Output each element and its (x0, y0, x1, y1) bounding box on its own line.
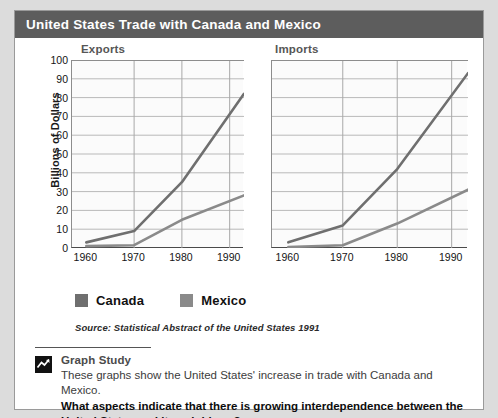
legend-swatch-mexico (180, 294, 193, 307)
x-tick-1990: 1990 (217, 251, 240, 263)
y-tick-60: 60 (56, 130, 68, 140)
y-tick-30: 30 (56, 187, 68, 197)
y-tick-0: 0 (62, 243, 68, 253)
x-tick-1970: 1970 (121, 251, 144, 263)
y-tick-20: 20 (56, 205, 68, 215)
series-line-canada (288, 73, 468, 242)
y-tick-10: 10 (56, 224, 68, 234)
legend-swatch-canada (75, 294, 88, 307)
y-tick-90: 90 (56, 74, 68, 84)
series-line-mexico (288, 190, 468, 247)
trade-graph-card: United States Trade with Canada and Mexi… (14, 10, 484, 410)
source-note: Source: Statistical Abstract of the Unit… (75, 322, 320, 333)
chart-imports-plot-area (271, 60, 467, 248)
line-chart-icon (35, 356, 52, 373)
caption-heading: Graph Study (61, 353, 469, 367)
caption-body: Graph Study These graphs show the United… (61, 353, 469, 418)
y-tick-80: 80 (56, 93, 68, 103)
y-tick-100: 100 (50, 55, 68, 65)
chart-exports: Exports Billions of Dollars 010203040506… (33, 38, 255, 288)
x-tick-1960: 1960 (276, 251, 299, 263)
chart-legend: Canada Mexico (75, 293, 246, 308)
chart-exports-plot-area (71, 60, 243, 248)
series-line-mexico (86, 195, 244, 246)
chart-exports-y-tick-labels: 0102030405060708090100 (44, 60, 68, 248)
x-tick-1960: 1960 (74, 251, 97, 263)
x-tick-1980: 1980 (385, 251, 408, 263)
charts-container: Exports Billions of Dollars 010203040506… (15, 38, 483, 288)
caption-description: These graphs show the United States' inc… (61, 368, 469, 398)
y-tick-50: 50 (56, 149, 68, 159)
x-tick-1970: 1970 (330, 251, 353, 263)
chart-imports-title: Imports (275, 43, 319, 55)
chart-imports-svg (272, 60, 468, 248)
legend-item-canada: Canada (75, 293, 144, 308)
legend-label-mexico: Mexico (201, 293, 246, 308)
caption-divider (35, 347, 151, 348)
card-title-bar: United States Trade with Canada and Mexi… (15, 11, 483, 38)
chart-exports-title: Exports (81, 43, 125, 55)
x-tick-1990: 1990 (439, 251, 462, 263)
chart-exports-x-tick-labels: 1960197019801990 (71, 251, 251, 265)
x-tick-1980: 1980 (169, 251, 192, 263)
legend-item-mexico: Mexico (180, 293, 246, 308)
y-tick-40: 40 (56, 168, 68, 178)
page-title: United States Trade with Canada and Mexi… (15, 17, 321, 32)
legend-label-canada: Canada (96, 293, 144, 308)
graph-study-caption: Graph Study These graphs show the United… (35, 353, 469, 418)
chart-exports-svg (72, 60, 244, 248)
y-tick-70: 70 (56, 111, 68, 121)
page-background: United States Trade with Canada and Mexi… (0, 0, 498, 418)
caption-question: What aspects indicate that there is grow… (61, 399, 469, 418)
chart-imports: Imports 1960197019801990 (263, 38, 479, 288)
chart-imports-x-tick-labels: 1960197019801990 (271, 251, 475, 265)
